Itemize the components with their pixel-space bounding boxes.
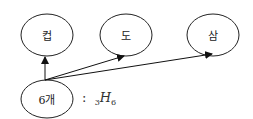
formula-colon: :: [82, 90, 86, 105]
arrow-to-node-2: [45, 56, 124, 80]
combination-formula: : 3H6: [82, 90, 116, 107]
arrow-to-node-3: [45, 54, 212, 80]
node-label-2: 도: [121, 27, 131, 43]
source-label: 6개: [39, 91, 56, 107]
node-label-3: 삼: [208, 27, 218, 43]
node-label-1: 컵: [42, 27, 52, 43]
formula-subscript: 6: [111, 98, 116, 107]
formula-symbol: H: [100, 90, 111, 105]
